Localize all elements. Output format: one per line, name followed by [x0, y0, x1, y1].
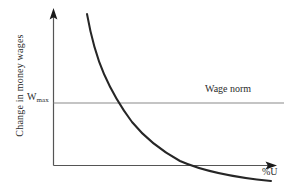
wage-norm-label: Wage norm	[205, 83, 251, 94]
y-axis-title: Change in money wages	[14, 11, 25, 161]
phillips-curve-figure: Change in money wages %U Wmax Wage norm	[0, 0, 289, 185]
phillips-curve-path	[87, 14, 271, 181]
wmax-label-subscript: max	[36, 96, 48, 104]
x-axis	[54, 161, 278, 169]
y-axis	[50, 8, 58, 166]
x-axis-title: %U	[262, 166, 278, 177]
wmax-label: Wmax	[27, 91, 49, 104]
